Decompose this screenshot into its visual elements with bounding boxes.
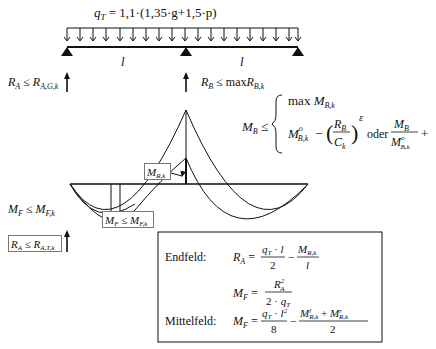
svg-text:MR,k: MR,k	[297, 243, 317, 257]
svg-text:Ck: Ck	[334, 135, 346, 151]
svg-text:ε: ε	[359, 111, 364, 123]
ra-upper-label: RA ≤ RA,G,k	[7, 75, 59, 91]
support-b-icon	[180, 47, 192, 56]
support-c-icon	[292, 47, 304, 56]
span-label-right: l	[240, 54, 244, 69]
svg-text:(: (	[326, 120, 333, 145]
svg-text:): )	[351, 120, 358, 145]
span-label-left: l	[121, 54, 125, 69]
continuous-beam-diagram: qT = 1,1·(1,35·g+1,5·p)	[0, 0, 436, 349]
distributed-load-icon	[64, 28, 301, 41]
svg-text:Mittelfeld:: Mittelfeld:	[165, 314, 216, 328]
svg-text:MF =: MF =	[232, 314, 258, 330]
svg-text:MF =: MF =	[232, 286, 258, 302]
ra-lower-boxed-label: RA ≤ RA,T,k	[8, 235, 62, 252]
svg-text:RA ≤ RA,T,k: RA ≤ RA,T,k	[10, 238, 55, 251]
arrowhead-b-icon	[183, 72, 189, 79]
svg-text:oder: oder	[367, 127, 388, 141]
svg-text:8: 8	[271, 323, 277, 335]
mrk-boxed-label: MR,k	[144, 163, 171, 180]
svg-text:MF ≤ MF,k: MF ≤ MF,k	[104, 214, 148, 227]
arrowhead-a-icon	[64, 72, 70, 79]
mf-boxed-label: MF ≤ MF,k	[102, 211, 154, 228]
svg-text:qT · l2: qT · l2	[262, 307, 288, 321]
load-formula: qT = 1,1·(1,35·g+1,5·p)	[94, 5, 217, 22]
svg-text:−: −	[288, 250, 295, 264]
moment-diagram	[70, 110, 308, 224]
mb-condition: MB ≤ max MB,k MoB,k − ( RB Ck ) ε oder M…	[241, 93, 428, 153]
svg-text:max MB,k: max MB,k	[288, 93, 335, 110]
svg-text:qT · l: qT · l	[262, 243, 284, 257]
mf-left-label: MF ≤ MF,k	[7, 202, 55, 218]
arrowhead-a-lower-icon	[64, 230, 70, 237]
rb-label: RB ≤ maxRB,k	[200, 75, 265, 91]
svg-text:MR,k: MR,k	[146, 166, 166, 179]
svg-text:MB ≤: MB ≤	[241, 119, 268, 136]
svg-text:Endfeld:: Endfeld:	[165, 250, 206, 264]
svg-text:MlR,k + MrR,k: MlR,k + MrR,k	[299, 307, 349, 321]
svg-text:−: −	[315, 126, 322, 141]
svg-text:l: l	[306, 259, 309, 271]
svg-text:RB: RB	[333, 117, 346, 133]
svg-text:2: 2	[330, 323, 336, 335]
svg-text:+: +	[421, 126, 428, 141]
svg-text:MoB,k: MoB,k	[287, 124, 309, 143]
svg-text:2: 2	[270, 259, 276, 271]
svg-text:MB: MB	[393, 117, 409, 133]
svg-text:MoB,k: MoB,k	[390, 134, 411, 151]
svg-text:−: −	[290, 314, 297, 328]
support-a-icon	[61, 47, 73, 56]
svg-text:R2A: R2A	[273, 277, 285, 293]
svg-text:RA =: RA =	[232, 250, 255, 266]
formula-box-content: Endfeld: RA = qT · l 2 − MR,k l MF = R2A…	[165, 243, 368, 335]
